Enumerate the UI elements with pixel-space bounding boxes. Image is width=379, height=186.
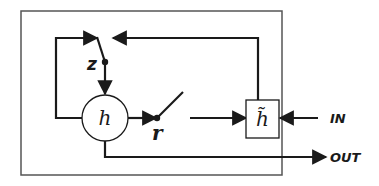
reset-gate-switch xyxy=(157,92,183,118)
candidate-state-label: h̃ xyxy=(256,107,269,131)
output-label: OUT xyxy=(330,150,362,165)
feedback-line-right xyxy=(113,38,258,100)
hidden-state-label: h xyxy=(99,106,112,130)
gru-diagram: z h r h̃ IN OUT xyxy=(0,0,379,186)
outer-frame xyxy=(21,11,282,175)
input-label: IN xyxy=(330,111,346,126)
update-gate-label: z xyxy=(86,54,97,74)
update-gate-switch xyxy=(97,37,105,62)
reset-gate-label: r xyxy=(152,121,164,145)
output-arrow xyxy=(105,141,326,157)
